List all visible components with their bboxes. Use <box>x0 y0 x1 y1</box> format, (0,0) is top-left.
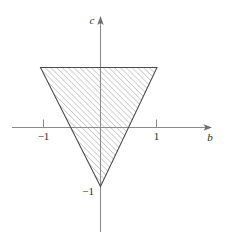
y-axis-label: c <box>90 14 95 26</box>
y-tick-label-neg1: −1 <box>82 185 94 197</box>
x-tick-label-neg1: −1 <box>38 130 50 142</box>
x-tick-label-pos1: 1 <box>154 130 160 142</box>
plot-canvas: −1 1 −1 c b <box>0 0 228 239</box>
x-axis-label: b <box>207 131 213 143</box>
figure-root: −1 1 −1 c b <box>0 0 228 239</box>
